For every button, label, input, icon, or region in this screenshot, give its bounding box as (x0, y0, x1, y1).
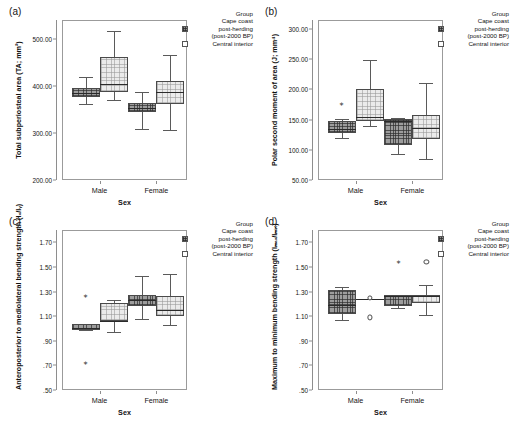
whisker-cap-lower (391, 308, 405, 309)
whisker-lower (114, 92, 115, 101)
whisker-upper (86, 77, 87, 88)
x-tick-label: Female (400, 396, 424, 405)
y-axis (56, 20, 57, 180)
whisker-lower (142, 112, 143, 128)
boxplot-box (384, 119, 412, 145)
y-tick-mark (309, 149, 312, 150)
whisker-cap-lower (135, 319, 149, 320)
whisker-cap-upper (107, 31, 121, 32)
whisker-cap-upper (135, 276, 149, 277)
outlier-marker: ∗ (83, 293, 88, 299)
y-tick-mark (309, 266, 312, 267)
x-tick-label: Female (144, 186, 168, 195)
x-tick-label: Female (144, 396, 168, 405)
legend-entry-central-interior: Central interior (191, 250, 253, 257)
whisker-cap-lower (135, 129, 149, 130)
outlier-marker: ∗ (396, 259, 401, 265)
whisker-cap-upper (79, 77, 93, 78)
x-tick-mark (412, 391, 413, 394)
y-tick-mark (309, 59, 312, 60)
boxplot-median (72, 93, 100, 94)
legend-swatch-cape-coast (182, 236, 188, 242)
legend-entry-cape-coast-line3: (post-2000 BP) (447, 32, 509, 39)
y-tick-mark (309, 365, 312, 366)
whisker-cap-upper (163, 55, 177, 56)
legend-entry-central-interior: Central interior (191, 40, 253, 47)
legend-entry-cape-coast-line1: Cape coast (191, 227, 253, 234)
x-tick-mark (356, 181, 357, 184)
boxplot-median (328, 305, 356, 306)
panel-a: (a)200.00300.00400.00500.00Total subperi… (0, 0, 256, 210)
whisker-cap-lower (163, 325, 177, 326)
y-tick-mark (309, 119, 312, 120)
whisker-cap-lower (163, 130, 177, 131)
whisker-cap-upper (363, 60, 377, 61)
boxplot-box (100, 303, 128, 321)
y-tick-mark (53, 316, 56, 317)
whisker-upper (170, 274, 171, 296)
legend-entry-cape-coast-line1: Cape coast (447, 17, 509, 24)
whisker-cap-lower (107, 332, 121, 333)
panel-c: (c).50.70.901.101.301.501.70Anteroposter… (0, 210, 256, 420)
y-tick-mark (53, 291, 56, 292)
whisker-cap-upper (335, 287, 349, 288)
x-tick-mark (156, 391, 157, 394)
boxplot-box (156, 296, 184, 316)
legend-swatch-cape-coast (438, 26, 444, 32)
x-axis-title: Sex (118, 408, 131, 417)
y-axis-title: Total subperiosteal area (TA; mm²) (14, 20, 23, 180)
panel-label: (b) (265, 6, 278, 17)
whisker-cap-lower (419, 159, 433, 160)
boxplot-median (412, 296, 440, 297)
whisker-cap-upper (163, 274, 177, 275)
y-axis (312, 20, 313, 180)
panel-label: (a) (9, 6, 22, 17)
whisker-cap-lower (335, 138, 349, 139)
whisker-lower (170, 104, 171, 130)
y-tick-mark (53, 340, 56, 341)
figure-root: (a)200.00300.00400.00500.00Total subperi… (0, 0, 513, 421)
legend-title: Group (191, 10, 253, 17)
x-tick-label: Male (92, 186, 108, 195)
y-tick-mark (309, 291, 312, 292)
whisker-lower (170, 316, 171, 325)
x-tick-label: Female (400, 186, 424, 195)
whisker-cap-upper (135, 92, 149, 93)
whisker-cap-lower (335, 320, 349, 321)
whisker-cap-lower (79, 104, 93, 105)
boxplot-median (72, 328, 100, 329)
whisker-upper (426, 83, 427, 115)
y-axis-title: Anteroposterior to mediolateral bending … (14, 230, 23, 390)
legend-entry-cape-coast-line2: post-herding (191, 25, 253, 32)
y-axis-title: Maximum to minimum bending strength (Iₘₐ… (270, 230, 279, 390)
y-axis-title: Polar second moment of area (J; mm⁴) (270, 20, 279, 180)
boxplot-median (156, 92, 184, 93)
whisker-cap-lower (419, 315, 433, 316)
y-tick-mark (53, 390, 56, 391)
whisker-lower (86, 97, 87, 104)
panel-d: (d).50.70.901.101.301.501.70Maximum to m… (256, 210, 512, 420)
whisker-lower (114, 321, 115, 332)
legend-title: Group (191, 220, 253, 227)
boxplot-median (384, 121, 412, 122)
legend: GroupCape coastpost-herding(post-2000 BP… (447, 10, 509, 47)
whisker-cap-lower (363, 126, 377, 127)
legend-entry-cape-coast-line1: Cape coast (447, 227, 509, 234)
boxplot-median (384, 296, 412, 297)
y-tick-mark (53, 365, 56, 366)
legend-entry-cape-coast-line3: (post-2000 BP) (191, 32, 253, 39)
y-axis (56, 230, 57, 390)
boxplot-median (328, 129, 356, 130)
legend-entry-central-interior: Central interior (447, 40, 509, 47)
x-axis-title: Sex (374, 198, 387, 207)
outlier-marker: ∗ (339, 101, 344, 107)
boxplot-median (128, 108, 156, 109)
x-tick-mark (100, 181, 101, 184)
whisker-upper (426, 285, 427, 295)
legend-entry-cape-coast-line1: Cape coast (191, 17, 253, 24)
whisker-upper (170, 55, 171, 81)
boxplot-median (100, 321, 128, 322)
whisker-lower (398, 145, 399, 154)
y-tick-mark (53, 242, 56, 243)
y-tick-mark (53, 132, 56, 133)
